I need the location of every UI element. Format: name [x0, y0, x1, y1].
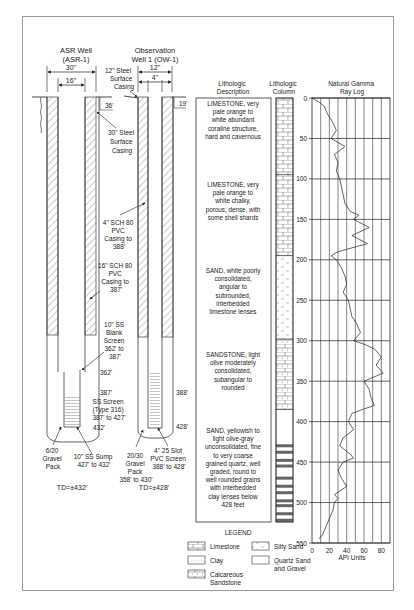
- asr-total-depth: TD=±432': [57, 484, 87, 491]
- asr-depth-387: 387': [100, 389, 112, 396]
- asr-sump-label: 10" SS Sump 427' to 432': [74, 453, 115, 468]
- ow-title-1: Observation: [135, 46, 175, 55]
- gamma-x-tick: 40: [343, 547, 351, 554]
- gamma-y-tick: 200: [296, 256, 307, 263]
- quartz-sand-swatch: [252, 556, 269, 564]
- ow-depth-19: 19': [179, 100, 187, 107]
- ow-total-depth: TD=±428': [139, 484, 169, 491]
- ow-dim-4: 4": [152, 74, 159, 81]
- asr-gravel-pack-label: 6/20 Gravel Pack: [43, 447, 64, 470]
- gamma-y-tick: 500: [296, 499, 307, 506]
- asr-title-2: (ASR-1): [62, 55, 90, 64]
- legend-label: Limestone: [210, 543, 240, 550]
- asr-depth-362: 362': [100, 369, 112, 376]
- legend-label: Clay: [210, 557, 224, 565]
- asr-dim-30: 30": [66, 64, 77, 71]
- lithologic-description-header: Lithologic Description: [217, 80, 250, 96]
- gamma-x-tick: 60: [360, 547, 368, 554]
- asr-ss-screen-label: SS Screen (Type 316) 387' to 427': [92, 398, 125, 421]
- silty-sand-swatch: [252, 542, 269, 550]
- ow-depth-388: 388': [176, 389, 188, 396]
- gamma-y-tick: 350: [296, 378, 307, 385]
- lithology-description: LIMESTONE, verypale orange towhite abund…: [205, 100, 261, 140]
- gamma-y-tick: 50: [300, 135, 308, 142]
- gamma-grid: 0501001502002503003504004505005500204060…: [296, 95, 390, 555]
- gamma-y-tick: 150: [296, 216, 307, 223]
- asr-depth-432: 432': [93, 424, 105, 431]
- legend-label: Quartz Sandand Gravel: [274, 557, 311, 572]
- legend-item-clay: Clay: [188, 556, 224, 565]
- gamma-y-tick: 300: [296, 337, 307, 344]
- asr-title-1: ASR Well: [60, 46, 92, 55]
- ow-title-2: Well 1 (OW-1): [131, 55, 179, 64]
- gamma-y-tick: 0: [303, 95, 307, 102]
- asr-dim-16: 16": [66, 77, 77, 84]
- gamma-x-tick: 20: [326, 547, 334, 554]
- gamma-y-tick: 250: [296, 297, 307, 304]
- lithology-unit-limestone-1: LIMESTONE, verypale orange towhite abund…: [205, 100, 261, 140]
- well-completion-diagram: ASR Well (ASR-1) 30" 16" 36': [0, 0, 414, 610]
- lithologic-column: [276, 98, 293, 522]
- ow-screen-label: 4" 25 Slot PVC Screen 388' to 428': [150, 447, 188, 470]
- gamma-title: Natural Gamma Ray Log: [328, 80, 376, 96]
- asr-blank-screen-label: 10" SS Blank Screen 362' to 387': [104, 321, 126, 360]
- clay-swatch: [188, 556, 205, 564]
- legend: LEGEND LimestoneClayCalcareousSandstoneS…: [188, 529, 311, 586]
- legend-label: Silty Sand: [274, 543, 304, 551]
- asr-pvc-casing-label: 16" SCH 80 PVC Casing to 387': [98, 262, 134, 293]
- ow-gravel-pack-label: 20/30 Gravel Pack 358' to 430': [119, 452, 152, 483]
- ow-depth-428: 428': [176, 423, 188, 430]
- gamma-x-tick: 80: [378, 547, 386, 554]
- calcareous-sandstone-swatch: [188, 570, 205, 578]
- lithology-column-sand-1: [276, 256, 293, 339]
- gamma-xlabel: API Units: [338, 554, 366, 561]
- lithology-description: SAND, yellowish tolight olive-grayuncons…: [205, 427, 262, 508]
- gamma-y-tick: 450: [296, 459, 307, 466]
- lithology-section: Lithologic Description Lithologic Column…: [196, 80, 299, 522]
- gamma-x-tick: 0: [310, 547, 314, 554]
- asr-depth-36: 36': [105, 102, 113, 109]
- lithology-unit-sand-2: SAND, yellowish tolight olive-grayuncons…: [205, 427, 262, 508]
- limestone-swatch: [188, 542, 205, 550]
- gamma-ray-log: Natural Gamma Ray Log 050100150200250300…: [296, 80, 390, 561]
- legend-label: CalcareousSandstone: [210, 571, 244, 586]
- ow-pvc-casing-label: 4" SCH 80 PVC Casing to 388': [103, 219, 135, 250]
- lithology-column-limestone-2: [276, 175, 293, 256]
- legend-title: LEGEND: [225, 529, 252, 536]
- ow-surface-casing-label: 12" Steel Surface Casing: [105, 67, 134, 91]
- lithology-column-limestone-1: [276, 98, 293, 175]
- lithologic-column-header: Lithologic Column: [269, 80, 298, 95]
- legend-item-quartz-sand: Quartz Sandand Gravel: [252, 556, 311, 572]
- ow-dim-12: 12": [150, 64, 161, 71]
- legend-item-limestone: Limestone: [188, 542, 240, 550]
- asr-well: ASR Well (ASR-1) 30" 16" 36': [32, 46, 136, 491]
- gamma-y-tick: 100: [296, 175, 307, 182]
- lithology-column-sandstone: [276, 339, 293, 409]
- legend-item-calcareous-sandstone: CalcareousSandstone: [188, 570, 244, 586]
- asr-surface-casing-label: 30" Steel Surface Casing: [108, 129, 136, 155]
- gamma-y-tick: 400: [296, 418, 307, 425]
- legend-item-silty-sand: Silty Sand: [252, 542, 304, 551]
